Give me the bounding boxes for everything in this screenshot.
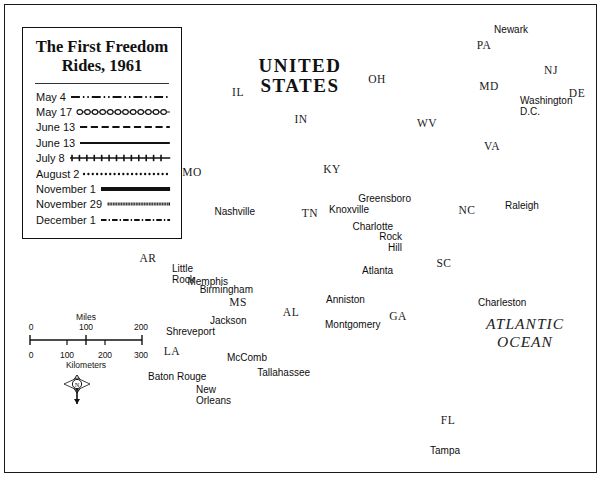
city-label: Newark xyxy=(494,25,528,35)
legend-entry-line-sample xyxy=(101,183,170,195)
legend-entry: July 8 xyxy=(23,151,181,166)
state-label-wv: WV xyxy=(417,118,437,130)
city-label-line: Rock xyxy=(172,275,195,286)
legend-entry-line-sample xyxy=(84,168,170,180)
state-label-tn: TN xyxy=(302,208,318,220)
scale-tick: 200 xyxy=(98,350,112,360)
country-label: UNITED STATES xyxy=(230,56,370,96)
scale-km-caption: Kilometers xyxy=(28,360,144,370)
country-label-line2: STATES xyxy=(230,76,370,96)
scale-tick: 200 xyxy=(134,322,148,332)
city-label-line: Atlanta xyxy=(362,266,393,276)
city-label-line: Orleans xyxy=(196,396,231,407)
city-label: Atlanta xyxy=(362,266,393,276)
city-label: Birmingham xyxy=(200,285,253,295)
city-label-line: Newark xyxy=(494,25,528,35)
legend-entry: November 29 xyxy=(23,197,181,212)
legend-rows: May 4 May 17 June 13 June 13 July 8 Augu… xyxy=(23,89,181,228)
legend-entry-label: November 29 xyxy=(36,198,102,210)
city-label-line: Tallahassee xyxy=(257,368,310,378)
legend-entry-label: August 2 xyxy=(36,168,79,180)
city-label: LittleRock xyxy=(172,264,195,285)
city-label: NewOrleans xyxy=(196,385,231,406)
city-label: Knoxville xyxy=(329,205,369,215)
city-label-line: Knoxville xyxy=(329,205,369,215)
legend-entry-line-sample xyxy=(70,152,170,164)
city-label-line: Montgomery xyxy=(325,320,381,330)
legend-entry-line-sample xyxy=(77,106,170,118)
city-label-line: Washington xyxy=(520,96,572,107)
ocean-label-line2: OCEAN xyxy=(460,333,590,351)
legend-entry: June 13 xyxy=(23,135,181,150)
state-label-al: AL xyxy=(283,307,299,319)
legend-entry-line-sample xyxy=(80,137,170,149)
country-label-line1: UNITED xyxy=(230,56,370,76)
legend-entry-label: November 1 xyxy=(36,183,96,195)
scale-tick: 100 xyxy=(79,322,93,332)
scale-bar-graphic xyxy=(28,334,144,346)
state-label-va: VA xyxy=(484,141,500,153)
city-label-line: Raleigh xyxy=(505,201,539,211)
scale-tick: 300 xyxy=(134,350,148,360)
scale-bar: Miles 0100200 0100200300 Kilometers xyxy=(28,312,144,370)
legend-entry: November 1 xyxy=(23,181,181,196)
city-label: Montgomery xyxy=(325,320,381,330)
city-label-line: Rock xyxy=(379,232,402,243)
city-label: McComb xyxy=(227,353,267,363)
scale-km-ticks: 0100200300 xyxy=(28,350,144,360)
legend-entry-line-sample xyxy=(101,214,170,226)
legend-entry-label: May 4 xyxy=(36,91,66,103)
city-label: Anniston xyxy=(326,295,365,305)
city-label: Tallahassee xyxy=(257,368,310,378)
city-label: Shreveport xyxy=(166,327,215,337)
city-label-line: Greensboro xyxy=(358,194,411,204)
state-label-sc: SC xyxy=(436,258,451,270)
state-label-fl: FL xyxy=(441,415,455,427)
state-label-md: MD xyxy=(479,81,499,93)
legend-entry: May 17 xyxy=(23,104,181,119)
city-label-line: Baton Rouge xyxy=(148,372,206,382)
legend-entry-label: July 8 xyxy=(36,152,65,164)
city-label: Jackson xyxy=(210,316,247,326)
city-label-line: Shreveport xyxy=(166,327,215,337)
legend-entry: August 2 xyxy=(23,166,181,181)
city-label-line: D.C. xyxy=(520,107,572,118)
legend-entry-label: June 13 xyxy=(36,137,75,149)
state-label-ky: KY xyxy=(323,164,341,176)
legend-entry: May 4 xyxy=(23,89,181,104)
freedom-rides-map: ILINOHPANJDEMDWVVAKYTNNCSCGAALMSLAARMOFL… xyxy=(0,0,601,477)
legend-title-line1: The First Freedom xyxy=(29,37,175,56)
city-label: Tampa xyxy=(430,446,460,456)
legend-entry: December 1 xyxy=(23,212,181,227)
legend-entry-line-sample xyxy=(71,91,170,103)
city-label: WashingtonD.C. xyxy=(520,96,572,117)
legend-title: The First Freedom Rides, 1961 xyxy=(23,28,181,81)
ocean-label: ATLANTIC OCEAN xyxy=(460,315,590,351)
legend-entry-label: December 1 xyxy=(36,214,96,226)
legend-title-line2: Rides, 1961 xyxy=(29,56,175,75)
state-label-nc: NC xyxy=(459,205,476,217)
map-legend: The First Freedom Rides, 1961 May 4 May … xyxy=(22,27,182,239)
city-label-line: McComb xyxy=(227,353,267,363)
ocean-label-line1: ATLANTIC xyxy=(460,315,590,333)
scale-miles-ticks: 0100200 xyxy=(28,322,144,332)
city-label: Raleigh xyxy=(505,201,539,211)
legend-entry-line-sample xyxy=(107,198,170,210)
city-label-line: Nashville xyxy=(214,207,255,217)
state-label-ga: GA xyxy=(389,311,407,323)
legend-entry-label: June 13 xyxy=(36,121,75,133)
legend-entry: June 13 xyxy=(23,120,181,135)
city-label-line: Little xyxy=(172,264,195,275)
city-label-line: Birmingham xyxy=(200,285,253,295)
scale-miles-caption: Miles xyxy=(28,312,144,322)
state-label-pa: PA xyxy=(477,40,492,52)
compass-rose: N xyxy=(62,373,92,407)
city-label-line: Charleston xyxy=(478,298,526,308)
state-label-in: IN xyxy=(294,114,307,126)
compass-north-letter: N xyxy=(75,381,80,388)
state-label-nj: NJ xyxy=(544,65,558,77)
city-label: Charleston xyxy=(478,298,526,308)
state-label-ms: MS xyxy=(229,297,247,309)
legend-entry-label: May 17 xyxy=(36,106,72,118)
city-label: Greensboro xyxy=(358,194,411,204)
